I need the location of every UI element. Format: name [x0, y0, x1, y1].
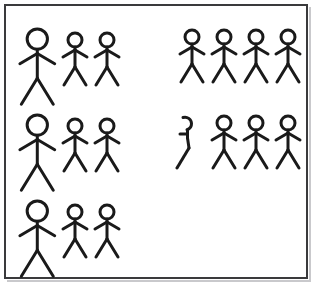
stick-figure — [210, 114, 238, 170]
stick-figure — [17, 198, 58, 279]
stick-figure — [274, 114, 302, 170]
stick-figure — [93, 31, 121, 87]
stick-figure — [242, 114, 270, 170]
stick-figure — [17, 26, 58, 107]
stick-figure — [210, 28, 238, 84]
stick-figure — [61, 31, 89, 87]
stick-figure — [242, 28, 270, 84]
stick-figure — [61, 203, 89, 259]
stick-figure — [93, 117, 121, 173]
figure-canvas — [0, 0, 318, 289]
stick-figure-panel — [0, 0, 318, 289]
stick-figure — [61, 117, 89, 173]
stick-figure — [17, 112, 58, 193]
stick-figure — [178, 28, 206, 84]
stick-figure-partial — [174, 114, 202, 170]
stick-figure — [274, 28, 302, 84]
stick-figure — [93, 203, 121, 259]
